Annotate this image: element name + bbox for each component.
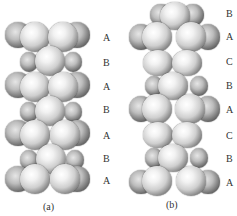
layer-label-a-3: B (103, 105, 110, 115)
layer-label-b-3: B (226, 81, 233, 91)
sphere (50, 164, 80, 194)
sphere (142, 22, 172, 52)
layer-label-b-2: C (226, 57, 233, 67)
sphere (190, 76, 208, 96)
caption-b: (b) (166, 200, 178, 210)
sphere (142, 166, 172, 196)
diagram: A B A B A B A B A C B A C B A (a) (b) (0, 0, 237, 216)
sphere (64, 102, 82, 122)
sphere (190, 148, 208, 168)
sphere (142, 94, 172, 124)
layer-label-b-4: A (226, 105, 233, 115)
layer-label-a-2: A (103, 82, 110, 92)
layer-label-b-5: C (226, 131, 233, 141)
layer-label-a-6: A (103, 176, 110, 186)
layer-label-b-0: B (226, 9, 233, 19)
layer-label-a-1: B (103, 58, 110, 68)
layer-label-a-5: B (103, 154, 110, 164)
sphere (175, 94, 205, 124)
layer-label-b-7: A (226, 178, 233, 188)
layer-label-b-6: B (226, 154, 233, 164)
layer-label-a-0: A (103, 33, 110, 43)
caption-a: (a) (43, 202, 54, 212)
layer-label-b-1: A (226, 32, 233, 42)
layer-label-a-4: A (103, 131, 110, 141)
sphere (176, 22, 206, 52)
sphere (20, 164, 50, 194)
sphere (176, 166, 206, 196)
sphere (64, 52, 82, 72)
